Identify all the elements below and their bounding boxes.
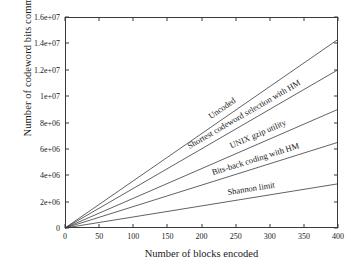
- y-tick-label: 1e+07: [40, 92, 65, 101]
- x-tick-label: 200: [196, 228, 208, 241]
- y-tick-label: 1.6e+07: [34, 13, 65, 22]
- y-tick-label: 1.2e+07: [34, 65, 65, 74]
- x-tick-label: 250: [230, 228, 242, 241]
- chart-figure: Number of codeword bits communicated Num…: [0, 0, 351, 268]
- plot-area: 02e+064e+066e+068e+061e+071.2e+071.4e+07…: [65, 17, 338, 228]
- x-tick-label: 50: [95, 228, 103, 241]
- x-tick-label: 100: [127, 228, 139, 241]
- x-tick-label: 350: [298, 228, 310, 241]
- x-tick-label: 400: [332, 228, 344, 241]
- x-tick-label: 300: [264, 228, 276, 241]
- y-tick-label: 4e+06: [40, 171, 65, 180]
- series-line: [65, 109, 338, 228]
- y-tick-label: 6e+06: [40, 144, 65, 153]
- y-tick-label: 1.4e+07: [34, 39, 65, 48]
- y-axis-label: Number of codeword bits communicated: [22, 0, 33, 137]
- x-tick-label: 150: [161, 228, 173, 241]
- series-line: [65, 142, 338, 228]
- y-tick-label: 2e+06: [40, 197, 65, 206]
- x-axis-label: Number of blocks encoded: [65, 248, 338, 259]
- series-line: [65, 184, 338, 228]
- series-lines: [65, 17, 338, 228]
- x-tick-label: 0: [63, 228, 67, 241]
- y-tick-label: 8e+06: [40, 118, 65, 127]
